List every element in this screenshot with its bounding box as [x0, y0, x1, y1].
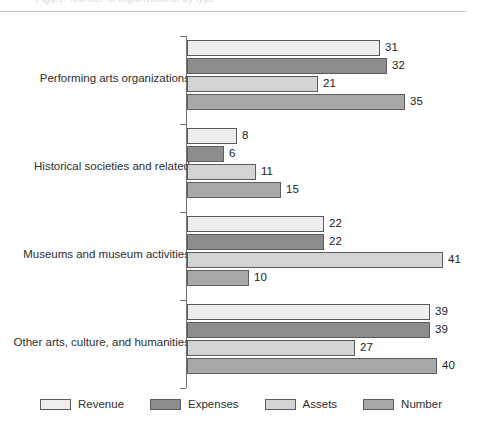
- bar-row: 40: [187, 358, 477, 374]
- category-label: Performing arts organizations: [0, 72, 190, 84]
- legend-item-expenses[interactable]: Expenses: [150, 398, 239, 410]
- bar-row: 27: [187, 340, 395, 356]
- legend-swatch-icon: [40, 399, 71, 410]
- bar-expenses: [187, 146, 224, 162]
- bar-value-label: 39: [435, 305, 448, 317]
- bar-row: 39: [187, 322, 470, 338]
- bar-row: 10: [187, 270, 289, 286]
- legend-item-revenue[interactable]: Revenue: [40, 398, 124, 410]
- bar-value-label: 21: [323, 77, 336, 89]
- bar-value-label: 22: [329, 217, 342, 229]
- bar-revenue: [187, 128, 237, 144]
- bar-value-label: 22: [329, 235, 342, 247]
- category-label: Other arts, culture, and humanities: [0, 336, 190, 348]
- bar-value-label: 10: [254, 271, 267, 283]
- legend-label: Number: [401, 398, 442, 410]
- bar-assets: [187, 76, 318, 92]
- bar-value-label: 8: [242, 129, 248, 141]
- legend-label: Assets: [303, 398, 338, 410]
- bar-row: 22: [187, 216, 364, 232]
- bar-row: 35: [187, 94, 445, 110]
- bar-value-label: 41: [448, 253, 461, 265]
- bar-number: [187, 270, 249, 286]
- header-divider: [0, 11, 466, 12]
- bar-row: 41: [187, 252, 482, 268]
- legend-swatch-icon: [363, 399, 394, 410]
- legend-label: Expenses: [188, 398, 239, 410]
- bar-row: 31: [187, 40, 420, 56]
- bar-value-label: 39: [435, 323, 448, 335]
- clipped-header-text: Figure. Number of organizations, by type: [0, 0, 482, 6]
- bar-group: Museums and museum activities22224110: [0, 212, 482, 300]
- bar-group: Historical societies and related861115: [0, 124, 482, 212]
- bar-value-label: 15: [286, 183, 299, 195]
- bar-revenue: [187, 216, 324, 232]
- bar-revenue: [187, 304, 430, 320]
- bar-number: [187, 94, 405, 110]
- bar-expenses: [187, 58, 387, 74]
- bar-row: 21: [187, 76, 358, 92]
- clipped-header-label: Figure. Number of organizations, by type: [0, 0, 482, 4]
- bar-row: 22: [187, 234, 364, 250]
- legend-swatch-icon: [265, 399, 296, 410]
- bar-chart: Performing arts organizations31322135His…: [0, 20, 482, 395]
- bar-expenses: [187, 234, 324, 250]
- bar-row: 15: [187, 182, 321, 198]
- bar-value-label: 32: [392, 59, 405, 71]
- bar-group: Other arts, culture, and humanities39392…: [0, 300, 482, 388]
- axis-tick: [180, 124, 186, 125]
- bar-assets: [187, 164, 256, 180]
- bar-row: 6: [187, 146, 264, 162]
- bar-value-label: 11: [261, 165, 273, 177]
- bar-value-label: 27: [360, 341, 373, 353]
- bar-group: Performing arts organizations31322135: [0, 36, 482, 124]
- axis-tick: [180, 388, 186, 389]
- bar-number: [187, 182, 281, 198]
- legend-label: Revenue: [78, 398, 124, 410]
- bar-number: [187, 358, 437, 374]
- axis-tick: [180, 36, 186, 37]
- legend-item-assets[interactable]: Assets: [265, 398, 338, 410]
- bar-value-label: 40: [442, 359, 455, 371]
- bar-row: 11: [187, 164, 296, 180]
- legend-swatch-icon: [150, 399, 181, 410]
- bar-value-label: 35: [410, 95, 423, 107]
- category-label: Historical societies and related: [0, 160, 190, 172]
- bar-value-label: 6: [229, 147, 235, 159]
- bar-revenue: [187, 40, 380, 56]
- bar-expenses: [187, 322, 430, 338]
- axis-tick: [180, 212, 186, 213]
- bar-row: 39: [187, 304, 470, 320]
- axis-tick: [180, 300, 186, 301]
- bar-assets: [187, 340, 355, 356]
- bar-row: 8: [187, 128, 277, 144]
- bar-value-label: 31: [385, 41, 398, 53]
- category-label: Museums and museum activities: [0, 248, 190, 260]
- bar-assets: [187, 252, 443, 268]
- legend-item-number[interactable]: Number: [363, 398, 442, 410]
- bar-row: 32: [187, 58, 427, 74]
- chart-legend: RevenueExpensesAssetsNumber: [0, 398, 482, 410]
